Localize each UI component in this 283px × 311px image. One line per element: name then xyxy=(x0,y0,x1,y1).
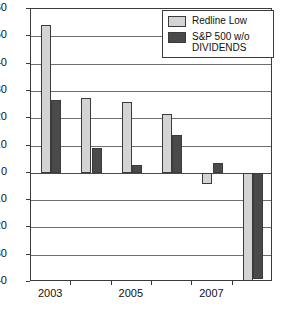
y-axis-tick-label: 0 xyxy=(0,166,7,177)
x-axis-tick-mark xyxy=(151,281,152,285)
x-axis-tick-mark xyxy=(232,281,233,285)
bar-chart: 6050403020100−10−20−30−40 200320052007 R… xyxy=(0,0,283,311)
legend-item: S&P 500 w/o DIVIDENDS xyxy=(168,31,268,53)
bar xyxy=(41,25,51,172)
x-axis-tick-mark xyxy=(70,281,71,285)
y-axis-tick-mark xyxy=(26,281,30,282)
y-axis-tick-label: 10 xyxy=(0,139,7,150)
x-axis-tick-label: 2003 xyxy=(30,288,70,299)
gridline xyxy=(31,255,271,256)
gridline xyxy=(31,146,271,147)
gridline xyxy=(31,118,271,119)
legend-item: Redline Low xyxy=(168,15,268,27)
y-axis-tick-label: 20 xyxy=(0,111,7,122)
y-axis-tick-label: 50 xyxy=(0,29,7,40)
x-axis-tick-label: 2007 xyxy=(191,288,231,299)
y-axis-tick-label: 60 xyxy=(0,2,7,13)
bar xyxy=(253,173,263,279)
legend-label: Redline Low xyxy=(192,15,247,26)
legend-label: S&P 500 w/o DIVIDENDS xyxy=(192,31,250,53)
legend-swatch-redline-low-icon xyxy=(168,16,186,27)
y-axis-tick-label: −30 xyxy=(0,248,7,259)
gridline xyxy=(31,200,271,201)
zero-line xyxy=(31,173,271,174)
gridline xyxy=(31,64,271,65)
y-axis-tick-label: −20 xyxy=(0,220,7,231)
bar xyxy=(172,135,182,172)
bar xyxy=(122,102,132,173)
gridline xyxy=(31,227,271,228)
bar xyxy=(81,98,91,173)
bar xyxy=(213,163,223,173)
y-axis-tick-label: 30 xyxy=(0,84,7,95)
bar xyxy=(92,148,102,173)
bar xyxy=(202,173,212,184)
y-axis-tick-label: −40 xyxy=(0,275,7,286)
y-axis-tick-label: 40 xyxy=(0,57,7,68)
x-axis-tick-mark xyxy=(191,281,192,285)
bar xyxy=(162,114,172,173)
gridline xyxy=(31,91,271,92)
bar xyxy=(51,100,61,172)
legend-swatch-sp500-icon xyxy=(168,32,186,43)
chart-legend: Redline Low S&P 500 w/o DIVIDENDS xyxy=(162,10,274,58)
y-axis-tick-label: −10 xyxy=(0,193,7,204)
x-axis-tick-mark xyxy=(111,281,112,285)
bar xyxy=(132,165,142,173)
bar xyxy=(243,173,253,281)
x-axis-tick-label: 2005 xyxy=(111,288,151,299)
